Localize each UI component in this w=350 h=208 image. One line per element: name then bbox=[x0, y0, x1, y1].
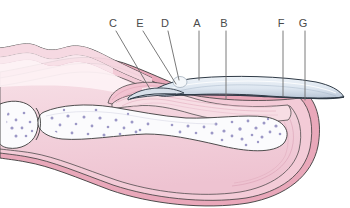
label-B: B bbox=[220, 17, 227, 29]
leader-line-D bbox=[168, 31, 179, 80]
label-C: C bbox=[109, 17, 117, 29]
nail-anatomy-figure: C E D A B F G bbox=[0, 0, 350, 208]
label-G: G bbox=[299, 17, 308, 29]
label-D: D bbox=[161, 17, 169, 29]
label-A: A bbox=[193, 17, 201, 29]
label-group: C E D A B F G bbox=[109, 17, 307, 29]
nail-anatomy-diagram: C E D A B F G bbox=[0, 0, 350, 208]
label-E: E bbox=[136, 17, 143, 29]
label-F: F bbox=[278, 17, 285, 29]
